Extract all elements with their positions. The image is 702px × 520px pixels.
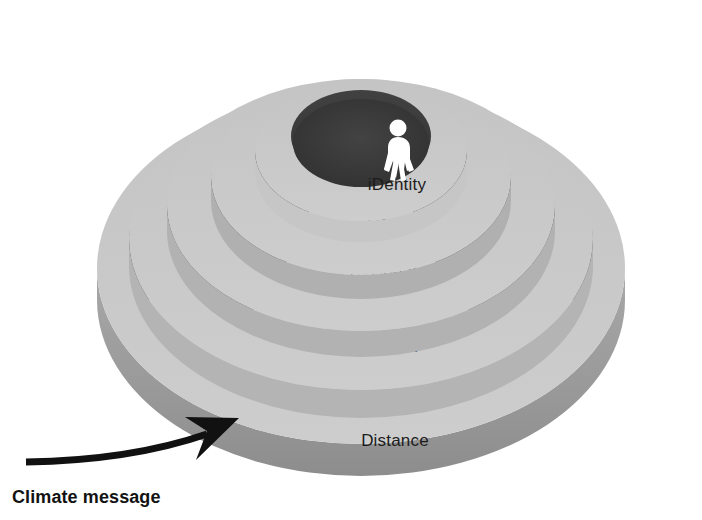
curved-arrow-shaft — [26, 434, 207, 462]
diagram-canvas: Distance Doom Dissonance — [0, 0, 702, 520]
tier-label-distance: Distance — [361, 431, 429, 450]
concentric-barriers-diagram: Distance Doom Dissonance — [0, 0, 702, 520]
climate-message-label: Climate message — [12, 487, 161, 507]
tier-identity[interactable]: iDentity — [255, 81, 467, 242]
tier-label-identity: iDentity — [368, 175, 427, 194]
